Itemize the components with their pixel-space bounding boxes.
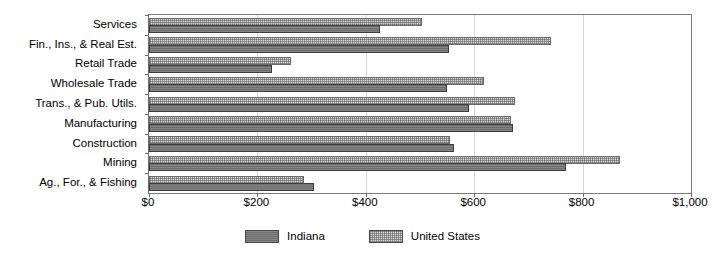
indiana-swatch-icon [245, 230, 279, 243]
category-label: Wholesale Trade [51, 77, 137, 89]
legend-label-united-states: United States [411, 230, 480, 243]
value-axis-label: $0 [142, 196, 155, 209]
category-label: Manufacturing [64, 117, 137, 129]
bar-group [149, 15, 691, 35]
legend-label-indiana: Indiana [287, 230, 325, 243]
bar-indiana [149, 163, 566, 171]
legend-item-united-states: United States [369, 230, 480, 243]
bar-group [149, 134, 691, 154]
bar-indiana [149, 45, 449, 53]
chart-legend: Indiana United States [0, 230, 725, 243]
bar-group [149, 114, 691, 134]
value-axis-label: $800 [569, 196, 595, 209]
bar-group [149, 173, 691, 193]
category-label: Services [93, 18, 137, 30]
category-axis: ServicesFin., Ins., & Real Est.Retail Tr… [0, 14, 144, 192]
category-label: Construction [72, 137, 137, 149]
bar-indiana [149, 104, 469, 112]
bar-group [149, 94, 691, 114]
value-axis-label: $600 [460, 196, 486, 209]
bar-group [149, 35, 691, 55]
value-axis-label: $1,000 [672, 196, 707, 209]
bar-indiana [149, 84, 447, 92]
category-label: Fin., Ins., & Real Est. [29, 38, 137, 50]
plot-area [148, 14, 692, 194]
bar-group [149, 74, 691, 94]
bar-indiana [149, 65, 272, 73]
bar-indiana [149, 25, 380, 33]
legend-item-indiana: Indiana [245, 230, 325, 243]
united-states-swatch-icon [369, 230, 403, 243]
value-axis-label: $400 [352, 196, 378, 209]
bar-indiana [149, 124, 513, 132]
bar-group [149, 55, 691, 75]
category-label: Mining [103, 156, 137, 168]
category-label: Trans., & Pub. Utils. [35, 97, 137, 109]
category-label: Ag., For., & Fishing [39, 176, 137, 188]
bar-indiana [149, 183, 314, 191]
category-label: Retail Trade [75, 57, 137, 69]
value-axis: $0$200$400$600$800$1,000 [148, 196, 690, 212]
bar-indiana [149, 144, 454, 152]
value-axis-label: $200 [244, 196, 270, 209]
bar-chart: ServicesFin., Ins., & Real Est.Retail Tr… [0, 0, 725, 271]
bar-group [149, 153, 691, 173]
